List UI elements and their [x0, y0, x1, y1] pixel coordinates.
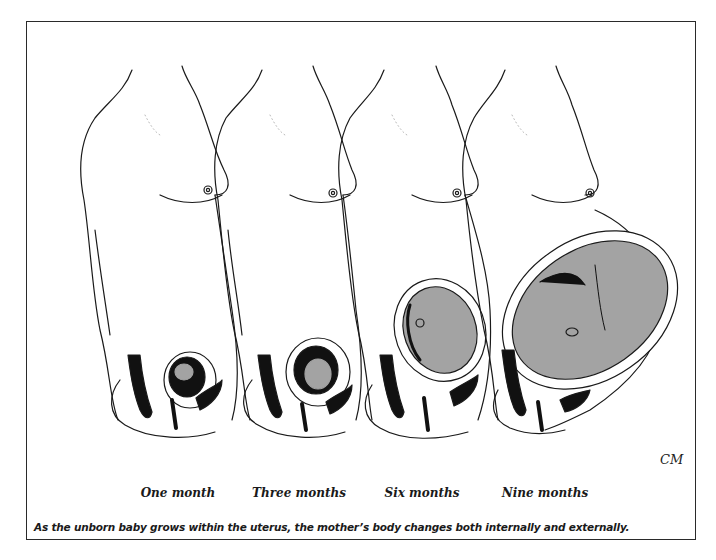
artist-signature: CM [660, 452, 683, 467]
stage-label-nine-months: Nine months [502, 486, 589, 500]
stage-label-three-months: Three months [252, 486, 346, 500]
figure-one-month [81, 66, 237, 437]
stage-label-six-months: Six months [384, 486, 459, 500]
pregnancy-stages-illustration [0, 0, 716, 480]
stage-label-one-month: One month [141, 486, 216, 500]
stipple-shading [145, 115, 527, 135]
figure-nine-months [463, 66, 708, 434]
figure-six-months [339, 66, 500, 438]
figure-caption: As the unborn baby grows within the uter… [34, 521, 629, 533]
